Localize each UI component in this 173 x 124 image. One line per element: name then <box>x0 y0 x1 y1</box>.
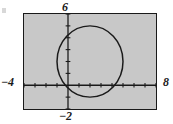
axes-group <box>24 14 156 109</box>
corner-artifact <box>2 8 6 13</box>
x-max-label: 8 <box>163 76 169 88</box>
x-min-label: −4 <box>1 76 14 88</box>
y-max-label: 6 <box>62 1 68 13</box>
y-min-label: −2 <box>59 110 72 122</box>
plot-canvas <box>24 14 156 109</box>
plot-area <box>23 13 157 110</box>
ticks-group <box>24 14 156 109</box>
graph-figure: 6 −2 −4 8 <box>0 0 173 124</box>
